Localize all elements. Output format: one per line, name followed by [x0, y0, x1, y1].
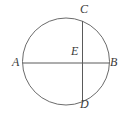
- point-label-e: E: [71, 45, 78, 57]
- geometry-figure: A B C D E: [0, 0, 126, 116]
- point-label-c: C: [80, 3, 88, 15]
- point-label-d: D: [80, 98, 89, 110]
- point-label-a: A: [12, 56, 19, 68]
- circle-shape: [23, 18, 110, 105]
- point-label-b: B: [110, 56, 117, 68]
